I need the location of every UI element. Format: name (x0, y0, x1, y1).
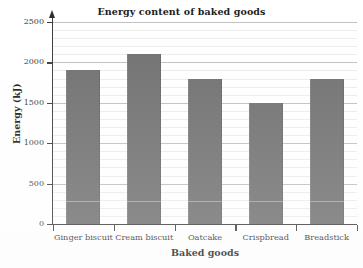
bars-layer (53, 22, 357, 224)
scan-streak-line (53, 201, 357, 202)
plot-area (53, 22, 357, 224)
x-axis-tick (357, 225, 358, 231)
x-axis-title: Baked goods (53, 247, 357, 258)
bar-crispbread (249, 103, 283, 224)
x-axis-tick (175, 225, 176, 231)
x-axis-category-label: Breadstick (296, 232, 357, 242)
y-axis-tick-label: 0 (39, 219, 44, 228)
y-axis-tick-label: 1000 (24, 138, 44, 147)
x-axis-tick (114, 225, 115, 231)
y-axis-tick (47, 22, 53, 23)
x-axis-category-label: Oatcake (175, 232, 236, 242)
x-axis-tick (53, 225, 54, 231)
x-axis-tick (235, 225, 236, 231)
y-axis-tick-label: 2500 (24, 17, 44, 26)
y-axis-tick-label: 1500 (24, 98, 44, 107)
x-axis-category-label: Ginger biscuit (53, 232, 114, 242)
y-axis-tick (47, 143, 53, 144)
y-axis-tick (47, 62, 53, 63)
y-axis-tick-label: 500 (29, 179, 44, 188)
y-axis-title: Energy (kJ) (11, 64, 22, 164)
bar-chart-figure: Energy content of baked goods 0500100015… (0, 0, 363, 268)
x-axis-category-label: Cream biscuit (114, 232, 175, 242)
x-axis-tick (296, 225, 297, 231)
bar-cream-biscuit (127, 54, 161, 224)
x-axis-category-label: Crispbread (235, 232, 296, 242)
y-axis-tick (47, 184, 53, 185)
y-axis-tick (47, 103, 53, 104)
y-axis-arrow-icon (49, 10, 55, 18)
y-axis-line (52, 17, 53, 225)
x-axis-line (52, 224, 357, 225)
y-axis-tick-label: 2000 (24, 57, 44, 66)
